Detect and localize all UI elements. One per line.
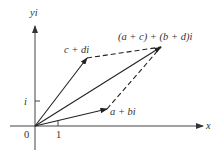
complex-plane-diagram: yi x 0 1 i c + di (a + c) + (b + d)i a +… [0,0,221,154]
y-tick-label: i [24,96,27,107]
origin-label: 0 [24,129,29,140]
dashed-side-right [107,47,161,109]
y-axis-label: yi [29,7,38,18]
dashed-side-top [87,47,161,58]
label-sum: (a + c) + (b + d)i [118,31,192,43]
x-tick-label: 1 [56,129,61,140]
x-axis-label: x [205,120,211,131]
label-a-bi: a + bi [110,106,136,117]
vector-sum [35,47,161,126]
label-c-di: c + di [64,44,89,55]
